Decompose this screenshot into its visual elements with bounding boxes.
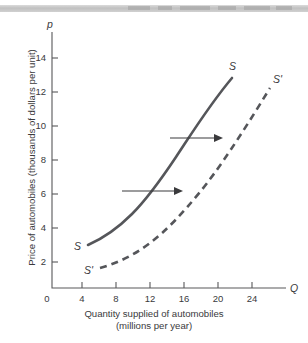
y-tick-label-10: 10	[35, 120, 46, 131]
chart-canvas: 2 4 6 8 10 12 14 0 4 8 12 16 20 24 p Q S	[0, 0, 308, 343]
curve-label-s-top: S	[229, 60, 236, 72]
caption-line-2: (millions per year)	[0, 320, 308, 332]
curve-label-s-bottom: S	[74, 240, 81, 252]
y-tick-label-4: 4	[41, 222, 46, 233]
caption-line-1: Quantity supplied of automobiles	[0, 308, 308, 320]
y-tick-label-8: 8	[41, 154, 46, 165]
y-axis-ticks	[52, 58, 58, 262]
x-tick-label-0: 0	[44, 293, 49, 304]
axis-lines	[52, 32, 286, 288]
y-tick-label-2: 2	[41, 256, 46, 267]
x-axis-symbol: Q	[290, 282, 298, 294]
y-tick-label-12: 12	[35, 86, 46, 97]
figure-supply-curve-shift: 2 4 6 8 10 12 14 0 4 8 12 16 20 24 p Q S	[0, 0, 308, 343]
y-axis-title: Price of automobiles (thousands of dolla…	[26, 33, 37, 283]
curve-supply-s-prime	[100, 88, 270, 268]
x-axis-caption: Quantity supplied of automobiles (millio…	[0, 308, 308, 333]
curve-label-sprime-top: S'	[273, 73, 283, 85]
y-tick-label-14: 14	[35, 52, 46, 63]
y-tick-label-6: 6	[41, 188, 46, 199]
x-tick-label-24: 24	[247, 293, 258, 304]
x-tick-label-16: 16	[179, 293, 190, 304]
shift-arrow-upper	[170, 134, 223, 142]
x-tick-label-12: 12	[145, 293, 156, 304]
x-axis-ticks	[82, 282, 252, 288]
x-tick-label-8: 8	[113, 293, 118, 304]
x-tick-label-20: 20	[213, 293, 224, 304]
curve-supply-s	[88, 78, 232, 245]
curve-label-sprime-bottom: S'	[84, 264, 94, 276]
x-tick-label-4: 4	[79, 293, 84, 304]
y-axis-symbol: p	[46, 18, 53, 30]
